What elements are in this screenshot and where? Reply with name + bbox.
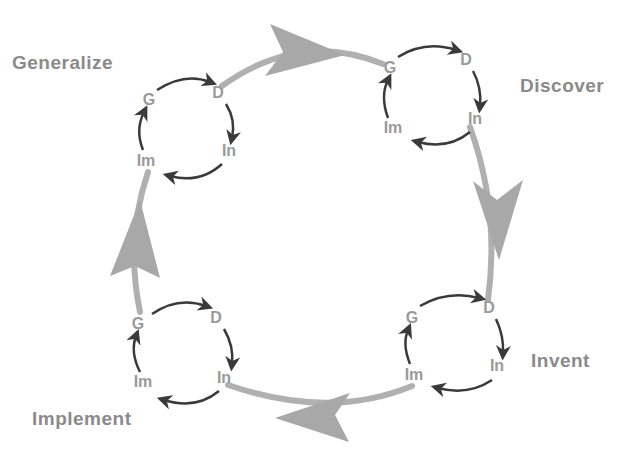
phase-label-invent: Invent [531,350,590,372]
node-g: G [406,309,418,327]
node-d: D [460,51,472,69]
node-d: D [212,84,224,102]
node-d: D [483,299,495,317]
big-arrowhead-down-icon [473,180,523,260]
node-im: Im [134,373,153,391]
phase-label-generalize: Generalize [12,52,113,74]
node-g: G [132,315,144,333]
node-d: D [210,309,222,327]
node-in: In [222,142,236,160]
node-in: In [217,369,231,387]
big-arc-implement-to-generalize [110,172,160,312]
big-arc-invent-to-implement [228,385,412,442]
phase-label-implement: Implement [32,408,132,430]
big-arc-generalize-to-discover [222,24,383,86]
node-im: Im [405,366,424,384]
node-g: G [384,59,396,77]
node-im: Im [137,152,156,170]
node-im: Im [384,119,403,137]
node-in: In [468,110,482,128]
node-g: G [143,91,155,109]
big-arc-discover-to-invent [470,127,523,300]
phase-label-discover: Discover [520,75,604,97]
node-in: In [490,357,504,375]
